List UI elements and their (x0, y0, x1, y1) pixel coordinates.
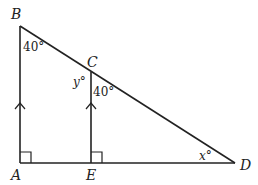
angle-c-upper-label: y° (72, 75, 86, 89)
right-angle-a-icon (20, 152, 31, 163)
label-point-d: D (239, 157, 251, 173)
geometry-diagram: B C A E D 40° y° 40° x° (0, 0, 258, 185)
label-point-c: C (87, 54, 98, 70)
label-point-a: A (9, 167, 21, 183)
right-angle-e-icon (91, 152, 102, 163)
angle-d-label: x° (199, 149, 212, 163)
label-point-b: B (10, 6, 21, 22)
label-point-e: E (85, 167, 96, 183)
angle-c-lower-label: 40° (93, 85, 114, 99)
segment-bd (20, 26, 235, 163)
angle-b-label: 40° (23, 40, 44, 54)
